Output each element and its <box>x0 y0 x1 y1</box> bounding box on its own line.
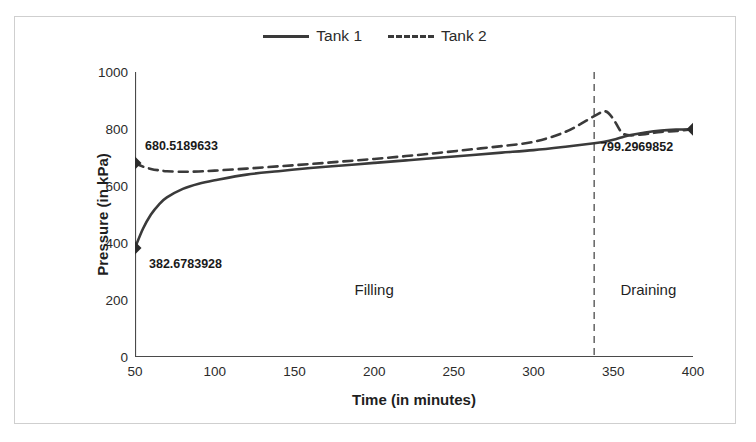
x-tick-label: 50 <box>127 364 142 379</box>
data-label-382: 382.6783928 <box>149 257 222 271</box>
phase-label-draining: Draining <box>620 281 676 298</box>
legend-entry-tank-2: Tank 2 <box>388 27 487 45</box>
legend-swatch-dashed-icon <box>388 35 434 38</box>
y-tick-label: 400 <box>105 236 128 251</box>
chart-legend: Tank 1 Tank 2 <box>15 27 735 45</box>
x-tick-label: 300 <box>522 364 545 379</box>
data-label-680: 680.5189633 <box>145 139 218 153</box>
y-tick-label: 0 <box>120 350 128 365</box>
data-point-marker <box>135 241 142 254</box>
y-tick-label: 800 <box>105 122 128 137</box>
legend-label-tank-2: Tank 2 <box>441 27 487 45</box>
y-axis-title-text: Pressure (in kPa) <box>94 153 111 276</box>
legend-swatch-solid-icon <box>263 35 309 38</box>
data-point-marker <box>135 157 142 170</box>
data-point-marker <box>687 123 694 136</box>
plot-svg <box>135 72 693 357</box>
plot-area: 02004006008001000 5010015020025030035040… <box>135 72 693 357</box>
x-axis-title: Time (in minutes) <box>135 391 693 408</box>
data-label-799: 799.2969852 <box>600 140 673 154</box>
phase-label-filling: Filling <box>355 281 394 298</box>
y-tick-label: 200 <box>105 293 128 308</box>
x-tick-label: 350 <box>602 364 625 379</box>
x-tick-label: 250 <box>443 364 466 379</box>
x-tick-label: 100 <box>203 364 226 379</box>
legend-entry-tank-1: Tank 1 <box>263 27 362 45</box>
x-tick-label: 150 <box>283 364 306 379</box>
x-tick-label: 200 <box>363 364 386 379</box>
y-tick-label: 600 <box>105 179 128 194</box>
legend-label-tank-1: Tank 1 <box>316 27 362 45</box>
y-tick-label: 1000 <box>98 65 128 80</box>
x-tick-label: 400 <box>682 364 705 379</box>
chart-card: Tank 1 Tank 2 Pressure (in kPa) 02004006… <box>14 16 736 424</box>
